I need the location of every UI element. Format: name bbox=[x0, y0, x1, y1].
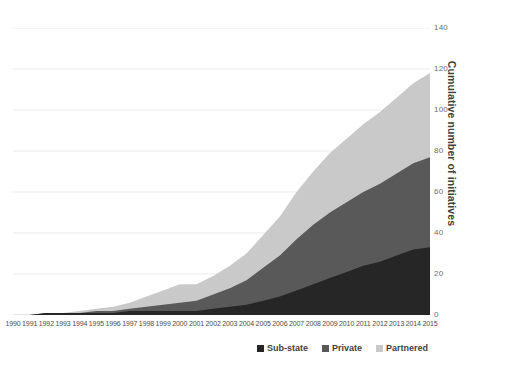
legend-swatch-icon bbox=[322, 345, 329, 352]
x-axis-tick-labels: 1990199119921993199419951996199719981999… bbox=[13, 319, 430, 331]
legend-item[interactable]: Partnered bbox=[376, 344, 428, 353]
legend-swatch-icon bbox=[376, 345, 383, 352]
chart-legend: Sub-statePrivatePartnered bbox=[0, 341, 468, 355]
y-axis-title: Cumulative number of initiatives bbox=[442, 0, 462, 287]
y-tick-label: 0 bbox=[434, 311, 464, 319]
legend-item[interactable]: Private bbox=[322, 344, 362, 353]
legend-item[interactable]: Sub-state bbox=[257, 344, 308, 353]
stacked-area-chart: 020406080100120140 Cumulative number of … bbox=[0, 0, 510, 365]
legend-label: Partnered bbox=[386, 344, 428, 353]
legend-label: Private bbox=[332, 344, 362, 353]
plot-area bbox=[13, 28, 430, 315]
x-tick-label: 2015 bbox=[419, 319, 441, 329]
legend-label: Sub-state bbox=[267, 344, 308, 353]
legend-swatch-icon bbox=[257, 345, 264, 352]
plot-svg bbox=[13, 28, 430, 315]
